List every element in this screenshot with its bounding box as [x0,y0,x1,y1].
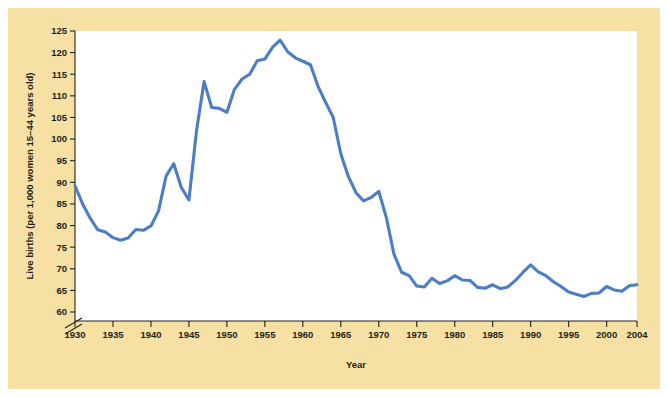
y-tick-label: 120 [51,47,67,58]
x-axis-title: Year [346,359,366,370]
x-tick-label: 1990 [520,329,541,340]
line-chart: 6065707580859095100105110115120125 19301… [0,0,668,397]
y-axis-ticks: 6065707580859095100105110115120125 [51,25,75,317]
y-tick-label: 105 [51,112,68,123]
y-axis-title: Live births (per 1,000 women 15–44 years… [24,73,35,280]
x-tick-label: 2004 [626,329,648,340]
y-tick-label: 65 [56,285,67,296]
x-tick-label: 2000 [596,329,617,340]
y-tick-label: 110 [52,90,67,101]
x-tick-label: 1985 [482,329,504,340]
x-tick-label: 1995 [558,329,580,340]
data-series-line [75,40,637,296]
x-axis-ticks: 1930193519401945195019551960196519701975… [64,321,648,340]
y-tick-label: 90 [56,177,67,188]
y-tick-label: 80 [56,220,67,231]
figure-root: 6065707580859095100105110115120125 19301… [0,0,668,397]
x-tick-label: 1935 [102,329,124,340]
x-tick-label: 1965 [330,329,352,340]
y-tick-label: 70 [56,263,67,274]
x-tick-label: 1960 [292,329,313,340]
x-tick-label: 1970 [368,329,389,340]
x-tick-label: 1980 [444,329,465,340]
x-tick-label: 1940 [140,329,161,340]
y-tick-label: 125 [51,25,68,36]
x-tick-label: 1945 [178,329,200,340]
y-tick-label: 100 [51,133,67,144]
x-tick-label: 1955 [254,329,276,340]
y-tick-label: 60 [56,306,67,317]
y-tick-label: 115 [52,69,68,80]
x-tick-label: 1975 [406,329,428,340]
y-tick-label: 95 [56,155,67,166]
x-tick-label: 1950 [216,329,237,340]
y-tick-label: 85 [56,198,67,209]
x-tick-label: 1930 [64,329,85,340]
y-tick-label: 75 [56,242,67,253]
